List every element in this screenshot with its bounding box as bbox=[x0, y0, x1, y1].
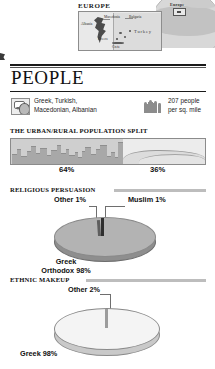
map-label-crete: Crete bbox=[112, 45, 120, 49]
map-label-greece: Greece bbox=[98, 37, 108, 41]
skyline-building bbox=[100, 145, 107, 164]
crowd-icon bbox=[143, 98, 162, 113]
page-root: Europe EUROPE Albania Macedonia Bulgaria… bbox=[0, 0, 215, 369]
religion-label-muslim: Muslim 1% bbox=[128, 196, 166, 205]
religion-slice-muslim bbox=[101, 218, 104, 236]
ethnic-title: ETHNIC MAKEUP bbox=[10, 276, 73, 283]
religion-rule bbox=[114, 189, 206, 192]
ethnic-rule bbox=[86, 279, 206, 282]
page-title: PEOPLE bbox=[11, 68, 84, 87]
religion-label-main: Greek Orthodox 98% bbox=[30, 258, 102, 275]
skyline-building bbox=[40, 148, 47, 164]
map-label-bulgaria: Bulgaria bbox=[129, 15, 141, 19]
region-map: Albania Macedonia Bulgaria Turkey Greece… bbox=[78, 11, 162, 51]
people-section-header: PEOPLE bbox=[10, 64, 206, 94]
urban-rural-graphic bbox=[10, 138, 206, 165]
languages-line-1: Greek, Turkish, bbox=[34, 97, 97, 106]
religion-pie-top bbox=[54, 217, 156, 257]
languages-line-2: Macedonian, Albanian bbox=[34, 106, 97, 115]
header-rule-bottom bbox=[10, 91, 206, 92]
ethnic-label-main: Greek 98% bbox=[20, 350, 57, 359]
map-island bbox=[116, 38, 118, 40]
religion-label-main-line-2: Orthodox 98% bbox=[30, 267, 102, 276]
crowd-body bbox=[158, 105, 162, 113]
fact-row: Greek, Turkish, Macedonian, Albanian 207… bbox=[10, 97, 206, 121]
ethnic-leader-other-h bbox=[100, 294, 111, 295]
map-island bbox=[129, 30, 131, 32]
map-island bbox=[119, 32, 122, 34]
header-rule-top bbox=[10, 64, 206, 66]
ethnic-slice-other bbox=[105, 309, 108, 328]
crowd-body bbox=[148, 102, 153, 113]
languages-text: Greek, Turkish, Macedonian, Albanian bbox=[34, 97, 97, 114]
density-text: 207 people per sq. mile bbox=[168, 97, 201, 114]
religion-slice-other bbox=[96, 220, 100, 236]
urban-rural-title: THE URBAN/RURAL POPULATION SPLIT bbox=[10, 127, 206, 134]
religion-pie-chart: Other 1% Muslim 1% Greek Orthodox 98% bbox=[10, 196, 206, 274]
religion-leader-muslim-h bbox=[105, 206, 125, 207]
urban-rural-chart: THE URBAN/RURAL POPULATION SPLIT bbox=[10, 127, 206, 179]
map-label-albania: Albania bbox=[81, 22, 92, 26]
religion-section-header: RELIGIOUS PERSUASION bbox=[10, 186, 206, 196]
map-label-macedonia: Macedonia bbox=[104, 15, 120, 19]
map-leader bbox=[103, 19, 110, 20]
globe-label: Europe bbox=[170, 2, 184, 7]
face-shape bbox=[19, 103, 30, 115]
speech-face-icon bbox=[11, 98, 30, 115]
globe-inset: Europe bbox=[156, 0, 215, 48]
map-title: EUROPE bbox=[78, 2, 110, 10]
religion-leader-other-h bbox=[89, 206, 97, 207]
rural-hill-front bbox=[139, 154, 205, 164]
ethnic-section-header: ETHNIC MAKEUP bbox=[10, 276, 206, 286]
religion-title: RELIGIOUS PERSUASION bbox=[10, 186, 99, 193]
density-line-2: per sq. mile bbox=[168, 106, 201, 115]
religion-label-other: Other 1% bbox=[54, 196, 86, 205]
ethnic-pie-chart: Other 2% Greek 98% bbox=[10, 286, 206, 366]
rural-percent: 36% bbox=[150, 165, 165, 174]
map-label-turkey: Turkey bbox=[134, 29, 152, 34]
density-line-1: 207 people bbox=[168, 97, 201, 106]
urban-percent: 64% bbox=[59, 165, 74, 174]
crowd-body bbox=[144, 104, 148, 113]
map-block: Europe EUROPE Albania Macedonia Bulgaria… bbox=[0, 0, 215, 58]
ethnic-label-other: Other 2% bbox=[68, 286, 100, 295]
globe-locator-box bbox=[173, 8, 186, 16]
